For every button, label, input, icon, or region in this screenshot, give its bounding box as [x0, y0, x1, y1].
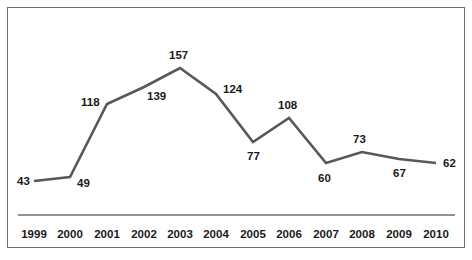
line-chart-canvas: 43491181391571247710860736762 1999200020…	[0, 0, 472, 260]
x-axis-tick-2001: 2001	[94, 228, 120, 240]
data-point-label-2000: 49	[77, 177, 90, 189]
data-point-label-1999: 43	[17, 175, 30, 187]
data-point-label-2003: 157	[169, 49, 188, 61]
x-axis-tick-2009: 2009	[386, 228, 412, 240]
data-point-label-2008: 73	[353, 133, 366, 145]
data-point-label-2002: 139	[147, 90, 166, 102]
x-axis-tick-2002: 2002	[131, 228, 157, 240]
x-axis-tick-1999: 1999	[21, 228, 47, 240]
data-point-label-2006: 108	[278, 99, 298, 111]
data-point-label-2009: 67	[393, 167, 406, 179]
x-axis-tick-2003: 2003	[167, 228, 193, 240]
x-axis-tick-2005: 2005	[240, 228, 266, 240]
data-point-label-2001: 118	[81, 96, 100, 108]
data-point-label-2010: 62	[443, 157, 456, 169]
x-axis-tick-2006: 2006	[276, 228, 302, 240]
data-point-label-2004: 124	[223, 83, 243, 95]
x-axis-tick-2000: 2000	[57, 228, 83, 240]
x-axis-tick-2008: 2008	[349, 228, 375, 240]
x-axis-tick-2010: 2010	[423, 228, 449, 240]
chart-figure: 43491181391571247710860736762 1999200020…	[0, 0, 472, 260]
data-point-label-2007: 60	[318, 172, 331, 184]
x-axis-tick-labels-group: 1999200020012002200320042005200620072008…	[21, 228, 449, 240]
data-point-label-2005: 77	[247, 150, 260, 162]
x-axis-tick-2004: 2004	[203, 228, 229, 240]
x-axis-tick-2007: 2007	[313, 228, 339, 240]
